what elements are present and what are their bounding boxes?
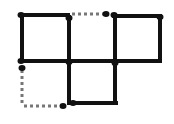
- matchstick-head-dot: [157, 14, 164, 20]
- matchstick-diagram: [0, 0, 174, 124]
- matchstick-head-dot: [70, 100, 77, 106]
- matchstick-head-dot: [111, 12, 118, 18]
- matchstick-head-dot: [18, 58, 25, 64]
- matchstick-head-dot: [19, 65, 26, 71]
- matchstick-head-dot: [66, 15, 73, 21]
- solid-matchsticks: [21, 15, 160, 103]
- matchstick-head-dot: [103, 11, 110, 17]
- matchstick-head-dot: [66, 59, 73, 65]
- matchstick-head-dot: [60, 103, 67, 109]
- matchstick-head-dot: [112, 60, 119, 66]
- matchstick-head-dot: [18, 12, 25, 18]
